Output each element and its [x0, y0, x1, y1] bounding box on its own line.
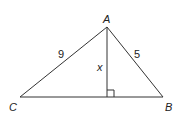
vertex-label-b: B: [165, 101, 172, 113]
side-label-ac: 9: [58, 48, 64, 60]
vertex-label-a: A: [102, 13, 110, 25]
altitude-label: x: [96, 61, 103, 73]
side-ab: [107, 27, 163, 97]
triangle-diagram: A C B 9 5 x: [0, 0, 183, 123]
right-angle-marker: [107, 90, 114, 97]
vertex-label-c: C: [9, 101, 17, 113]
side-label-ab: 5: [134, 48, 140, 60]
side-ac: [20, 27, 107, 97]
